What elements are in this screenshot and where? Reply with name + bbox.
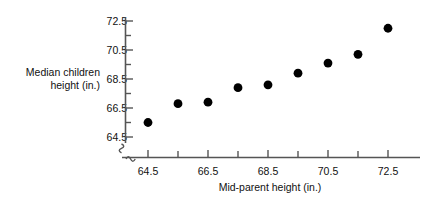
plot-canvas	[0, 0, 425, 201]
data-point	[264, 80, 273, 89]
scatter-plot-figure: Median children height (in.) Mid-parent …	[0, 0, 425, 201]
data-point	[384, 24, 393, 33]
axis-break-symbol	[119, 144, 135, 161]
data-point	[294, 69, 303, 78]
x-axis	[122, 150, 420, 158]
data-point	[174, 99, 183, 108]
data-point	[204, 98, 213, 107]
data-point	[144, 118, 153, 127]
data-point	[324, 59, 333, 68]
data-point	[354, 50, 363, 59]
data-point	[234, 83, 243, 92]
y-axis	[126, 18, 134, 143]
data-point-series	[144, 24, 393, 127]
